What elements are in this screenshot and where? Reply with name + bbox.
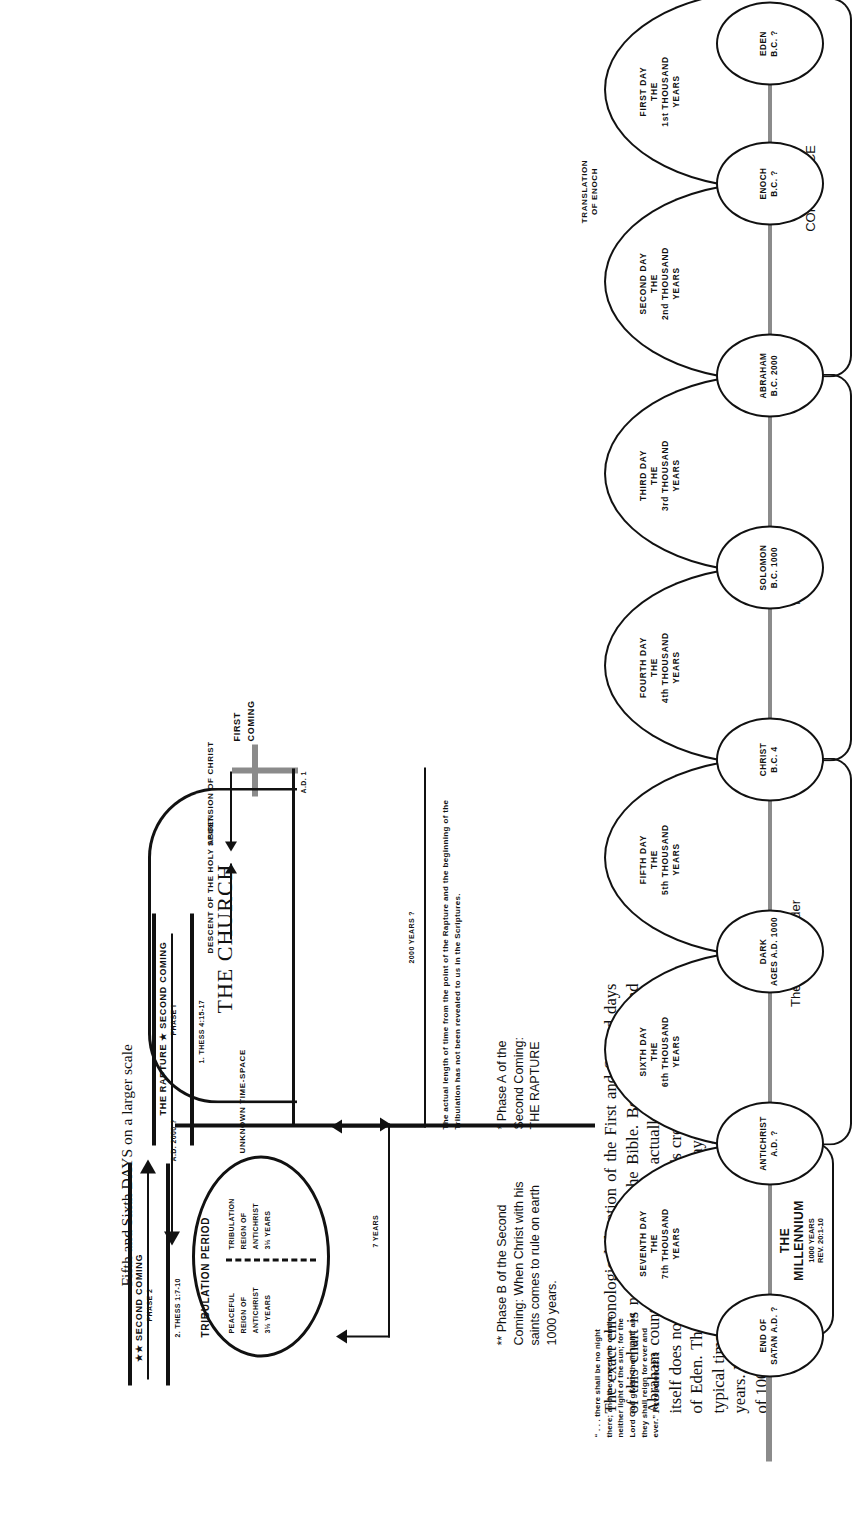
day-label-2: SECOND DAY THE 2nd THOUSAND YEARS (638, 207, 682, 359)
day-label-4: FOURTH DAY THE 4th THOUSAND YEARS (638, 591, 682, 743)
upper-panel-heading: Fifth and Sixth DAYS on a larger scale (118, 1044, 136, 1286)
day-4-line4: YEARS (671, 591, 682, 743)
day-label-1: FIRST DAY THE 1st THOUSAND YEARS (638, 15, 682, 167)
day-7-ordinal: SEVENTH DAY (638, 1167, 649, 1319)
tribulation-period-oval (192, 1155, 330, 1357)
seven-years-label: 7 YEARS (372, 1214, 381, 1247)
translation-of-enoch-label: TRANSLATIONOF ENOCH (580, 131, 600, 251)
day-4-line3: 4th THOUSAND (660, 591, 671, 743)
event-oval-antichrist: ANTICHRIST A.D. ? (716, 1101, 824, 1185)
day-label-5: FIFTH DAY THE 5th THOUSAND YEARS (638, 783, 682, 935)
day-7-line4: YEARS (671, 1167, 682, 1319)
day-6-line3: 6th THOUSAND (660, 975, 671, 1127)
event-dark-ages-name: DARK (759, 916, 770, 985)
rapture-phase-label: PHASE I (170, 1004, 179, 1035)
second-coming2-scripture-ref: 2. THESS 1:7-10 (174, 1278, 183, 1337)
two-thousand-years-arrowhead (331, 1119, 342, 1133)
ad1-label: A.D. 1 (300, 771, 309, 793)
day-4-line2: THE (649, 591, 660, 743)
event-enoch-date: B.C. ? (770, 167, 781, 199)
event-end-of-satan-date: SATAN A.D. ? (770, 1306, 781, 1365)
day-6-ordinal: SIXTH DAY (638, 975, 649, 1127)
day-3-line2: THE (649, 399, 660, 551)
event-abraham-name: ABRAHAM (759, 352, 770, 398)
two-thousand-years-line (424, 767, 426, 1127)
event-oval-enoch: ENOCH B.C. ? (716, 141, 824, 225)
rapture-arrow-line (171, 933, 173, 1233)
day-6-line2: THE (649, 975, 660, 1127)
second-coming2-arrow-line (147, 1167, 149, 1379)
event-solomon-date: B.C. 1000 (770, 544, 781, 590)
event-christ-date: B.C. 4 (770, 742, 781, 775)
event-dark-ages-date: AGES A.D. 1000 (770, 916, 781, 985)
descent-arrow-head (225, 863, 237, 873)
second-coming2-phase-label: PHASE 2 (146, 1288, 155, 1321)
day-7-line3: 7th THOUSAND (660, 1167, 671, 1319)
millennium-line4: REV. 20:1-10 (817, 1155, 826, 1325)
event-antichrist-name: ANTICHRIST (759, 1116, 770, 1171)
event-oval-end-of-satan: END OF SATAN A.D. ? (716, 1293, 824, 1377)
ascension-arrow-head (225, 841, 237, 851)
tribulation-divider (226, 1258, 316, 1261)
day-7-line2: THE (649, 1167, 660, 1319)
event-antichrist-date: A.D. ? (770, 1116, 781, 1171)
second-coming2-arrow-head (140, 1159, 156, 1173)
two-thousand-years-label: 2000 YEARS ? (408, 910, 417, 963)
tribulation-right-4: 3½ YEARS (264, 1171, 273, 1249)
event-oval-dark-ages: DARK AGES A.D. 1000 (716, 909, 824, 993)
event-oval-abraham: ABRAHAM B.C. 2000 (716, 333, 824, 417)
seven-years-right-arrowhead (380, 1117, 391, 1131)
tribulation-title: TRIBULATION PERIOD (200, 1216, 213, 1337)
event-oval-solomon: SOLOMON B.C. 1000 (716, 525, 824, 609)
prophecy-chart-poster: The exact chronological duration of the … (0, 0, 856, 1533)
day-5-line4: YEARS (671, 783, 682, 935)
seven-years-line (388, 1123, 390, 1337)
day-1-line3: 1st THOUSAND (660, 15, 671, 167)
day-2-line3: 2nd THOUSAND (660, 207, 671, 359)
day-label-7: SEVENTH DAY THE 7th THOUSAND YEARS (638, 1167, 682, 1319)
descent-label: DESCENT OF THE HOLY SPIRIT (206, 816, 216, 953)
event-end-of-satan-name: END OF (759, 1306, 770, 1365)
rapture-band-top (152, 913, 156, 1145)
descent-arrow-line (230, 863, 232, 939)
day-label-6: SIXTH DAY THE 6th THOUSAND YEARS (638, 975, 682, 1127)
day-3-line4: YEARS (671, 399, 682, 551)
day-label-3: THIRD DAY THE 3rd THOUSAND YEARS (638, 399, 682, 551)
tribulation-right-1: TRIBULATION (228, 1171, 237, 1249)
event-eden-name: EDEN (759, 30, 770, 57)
second-coming2-label: ★★ SECOND COMING (134, 1253, 145, 1361)
day-4-ordinal: FOURTH DAY (638, 591, 649, 743)
event-oval-christ: CHRIST B.C. 4 (716, 717, 824, 801)
day-1-ordinal: FIRST DAY (638, 15, 649, 167)
first-coming-label-upper-2: COMING (246, 700, 257, 741)
tribulation-right-3: ANTICHRIST (252, 1171, 261, 1249)
event-enoch-name: ENOCH (759, 167, 770, 199)
day-6-line4: YEARS (671, 975, 682, 1127)
day-1-line2: THE (649, 15, 660, 167)
phase-a-note: * Phase A of the Second Coming: THE RAPT… (494, 1009, 544, 1129)
event-abraham-date: B.C. 2000 (770, 352, 781, 398)
scripture-note: The actual length of time from the point… (440, 769, 463, 1129)
rapture-band-bottom (190, 913, 194, 1145)
second-coming2-band-bottom (166, 1163, 170, 1385)
day-2-line4: YEARS (671, 207, 682, 359)
day-5-ordinal: FIFTH DAY (638, 783, 649, 935)
event-christ-name: CHRIST (759, 742, 770, 775)
first-coming-label-upper-1: FIRST (232, 712, 243, 742)
day-2-line2: THE (649, 207, 660, 359)
rapture-label: THE RAPTURE ★ SECOND COMING (158, 941, 169, 1115)
ascension-arrow-line (230, 771, 232, 843)
tribulation-left-4: 3½ YEARS (264, 1267, 273, 1333)
phase-b-note: ** Phase B of the Second Coming: When Ch… (494, 1165, 560, 1345)
day-5-line3: 5th THOUSAND (660, 783, 671, 935)
day-2-ordinal: SECOND DAY (638, 207, 649, 359)
day-3-line3: 3rd THOUSAND (660, 399, 671, 551)
day-3-ordinal: THIRD DAY (638, 399, 649, 551)
revelation-quote: “ . . . there shall be no night there; a… (592, 1309, 662, 1437)
seven-years-left-arrowhead (336, 1329, 347, 1343)
tribulation-left-1: PEACEFUL (228, 1267, 237, 1333)
event-oval-eden: EDEN B.C. ? (716, 1, 824, 85)
unknown-timespace-label: UNKNOWN TIME-SPACE (238, 1049, 248, 1153)
event-eden-date: B.C. ? (770, 30, 781, 57)
tribulation-right-2: REIGN OF (240, 1171, 249, 1249)
